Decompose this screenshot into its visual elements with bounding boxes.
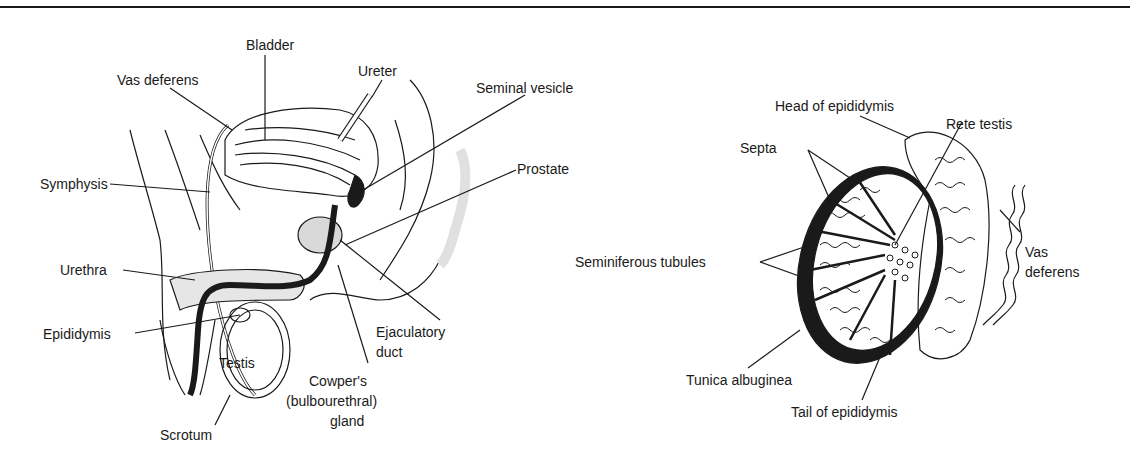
label-head-of-epididymis: Head of epididymis (775, 98, 894, 114)
label-ejaculatory-duct-line1: Ejaculatory (376, 324, 445, 340)
label-tail-of-epididymis: Tail of epididymis (791, 404, 898, 420)
anatomy-illustration (0, 0, 1130, 457)
label-prostate: Prostate (517, 161, 569, 177)
label-cowpers-gland-line3: gland (330, 413, 364, 429)
label-symphysis: Symphysis (40, 176, 108, 192)
label-rete-testis: Rete testis (946, 116, 1012, 132)
label-vas-deferens-line1: Vas (1025, 244, 1048, 260)
label-vas-deferens-line2: deferens (1025, 264, 1079, 280)
label-seminal-vesicle: Seminal vesicle (476, 80, 573, 96)
label-seminiferous-tubules: Seminiferous tubules (575, 254, 706, 270)
label-septa: Septa (740, 140, 777, 156)
label-cowpers-gland-line1: Cowper's (309, 373, 367, 389)
label-epididymis: Epididymis (43, 326, 111, 342)
label-ureter: Ureter (358, 63, 397, 79)
label-scrotum: Scrotum (160, 427, 212, 443)
label-cowpers-gland-line2: (bulbourethral) (286, 393, 377, 409)
label-ejaculatory-duct-line2: duct (376, 344, 402, 360)
label-urethra: Urethra (60, 262, 107, 278)
label-bladder: Bladder (246, 37, 294, 53)
label-testis: Testis (219, 355, 255, 371)
label-vas-deferens: Vas deferens (117, 72, 198, 88)
label-tunica-albuginea: Tunica albuginea (686, 372, 792, 388)
